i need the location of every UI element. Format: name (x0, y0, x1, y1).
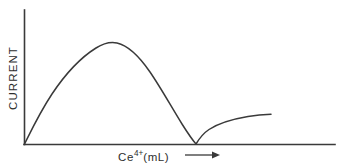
plot-canvas (0, 0, 343, 168)
curve-after-equivalence (196, 114, 271, 144)
amperometric-titration-figure: CURRENT Ce4+(mL) (0, 0, 343, 168)
x-axis-arrow (185, 151, 220, 158)
curve-before-equivalence (25, 42, 197, 144)
